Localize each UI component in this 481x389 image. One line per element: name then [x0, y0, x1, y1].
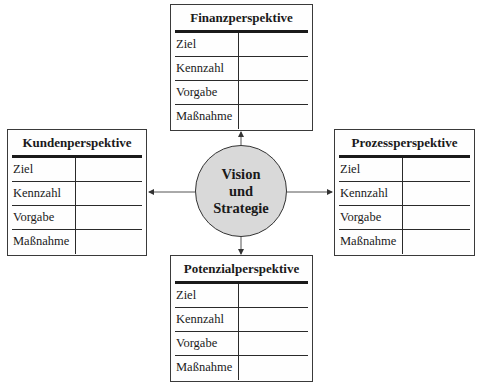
- row-value: [403, 158, 470, 181]
- table-row: Ziel: [339, 158, 470, 182]
- table-row: Ziel: [175, 284, 308, 308]
- potenzialperspektive-box: Potenzialperspektive Ziel Kennzahl Vorga…: [170, 255, 313, 382]
- row-label: Vorgabe: [175, 81, 239, 104]
- row-value: [239, 57, 308, 80]
- table-row: Ziel: [175, 33, 308, 57]
- row-label: Vorgabe: [339, 206, 403, 229]
- table-row: Maßnahme: [12, 230, 142, 254]
- perspective-title: Kundenperspektive: [12, 130, 142, 158]
- row-value: [239, 332, 308, 355]
- perspective-title: Potenzialperspektive: [175, 256, 308, 284]
- row-value: [76, 158, 142, 181]
- table-row: Vorgabe: [339, 206, 470, 230]
- table-row: Maßnahme: [175, 356, 308, 380]
- row-value: [239, 105, 308, 129]
- row-value: [403, 182, 470, 205]
- row-value: [76, 182, 142, 205]
- row-label: Ziel: [339, 158, 403, 181]
- table-row: Kennzahl: [175, 308, 308, 332]
- row-value: [239, 284, 308, 307]
- table-row: Kennzahl: [12, 182, 142, 206]
- table-row: Maßnahme: [339, 230, 470, 254]
- row-label: Maßnahme: [339, 230, 403, 254]
- table-row: Ziel: [12, 158, 142, 182]
- vision-strategy-circle: Vision und Strategie: [195, 145, 287, 237]
- row-label: Vorgabe: [12, 206, 76, 229]
- row-label: Ziel: [12, 158, 76, 181]
- table-row: Vorgabe: [12, 206, 142, 230]
- row-label: Ziel: [175, 284, 239, 307]
- row-value: [76, 230, 142, 254]
- table-row: Kennzahl: [339, 182, 470, 206]
- row-value: [76, 206, 142, 229]
- row-label: Kennzahl: [175, 57, 239, 80]
- row-value: [239, 356, 308, 380]
- row-label: Maßnahme: [12, 230, 76, 254]
- prozessperspektive-box: Prozessperspektive Ziel Kennzahl Vorgabe…: [334, 129, 475, 256]
- row-label: Ziel: [175, 33, 239, 56]
- row-label: Kennzahl: [175, 308, 239, 331]
- finanzperspektive-box: Finanzperspektive Ziel Kennzahl Vorgabe …: [170, 4, 313, 131]
- row-value: [239, 308, 308, 331]
- table-row: Vorgabe: [175, 81, 308, 105]
- row-label: Maßnahme: [175, 105, 239, 129]
- row-label: Vorgabe: [175, 332, 239, 355]
- row-label: Kennzahl: [339, 182, 403, 205]
- row-value: [403, 230, 470, 254]
- perspective-title: Prozessperspektive: [339, 130, 470, 158]
- center-line: und: [229, 183, 253, 200]
- kundenperspektive-box: Kundenperspektive Ziel Kennzahl Vorgabe …: [7, 129, 147, 256]
- center-line: Strategie: [213, 200, 269, 217]
- center-line: Vision: [222, 166, 261, 183]
- table-row: Maßnahme: [175, 105, 308, 129]
- row-value: [239, 81, 308, 104]
- row-value: [239, 33, 308, 56]
- table-row: Kennzahl: [175, 57, 308, 81]
- perspective-title: Finanzperspektive: [175, 5, 308, 33]
- row-label: Kennzahl: [12, 182, 76, 205]
- row-value: [403, 206, 470, 229]
- row-label: Maßnahme: [175, 356, 239, 380]
- table-row: Vorgabe: [175, 332, 308, 356]
